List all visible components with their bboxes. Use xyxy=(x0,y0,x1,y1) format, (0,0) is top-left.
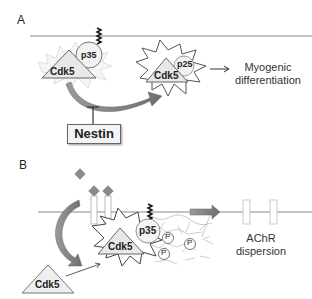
agrin-diamond-bound-2 xyxy=(102,185,113,196)
achr-line1: AChR xyxy=(226,232,296,245)
cdk5-complex-label: Cdk5 xyxy=(108,241,132,252)
achr-receptor-1 xyxy=(243,200,250,224)
p35-label-b: p35 xyxy=(139,225,156,236)
outcome-line2: differentiation xyxy=(226,74,310,87)
agrin-diamond-free xyxy=(74,168,85,179)
phospho-label-2: P xyxy=(187,238,192,247)
cdk5-free-label: Cdk5 xyxy=(35,279,59,290)
outcome-line1: Myogenic xyxy=(226,61,310,74)
p35-label-a: p35 xyxy=(81,50,97,60)
nestin-box: Nestin xyxy=(67,124,121,144)
translocation-arrow-b xyxy=(55,200,82,266)
p25-label: p25 xyxy=(177,59,193,69)
cdk5-active-label: Cdk5 xyxy=(154,70,178,81)
cdk5-label-a: Cdk5 xyxy=(50,66,74,77)
receptor-1 xyxy=(91,196,97,224)
achr-dispersion-label: AChR dispersion xyxy=(226,232,296,258)
phospho-label-3: P xyxy=(161,248,166,257)
dispersion-arrow xyxy=(190,205,220,219)
myogenic-differentiation-label: Myogenic differentiation xyxy=(226,61,310,87)
activation-arrow-a xyxy=(66,82,162,112)
panel-a-label: A xyxy=(17,13,25,27)
panel-b-label: B xyxy=(19,158,27,172)
achr-receptor-2 xyxy=(270,200,277,224)
agrin-diamond-bound-1 xyxy=(88,185,99,196)
phospho-label-1: P xyxy=(165,232,170,241)
achr-line2: dispersion xyxy=(226,245,296,258)
